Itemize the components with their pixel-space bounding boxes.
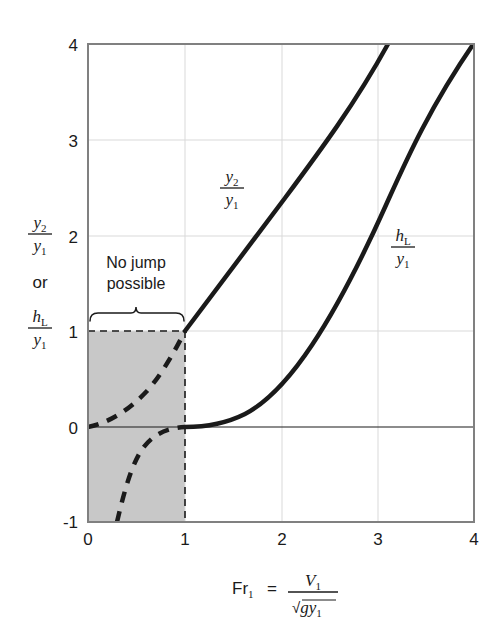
left-mask <box>0 0 88 630</box>
chart-svg: 0 1 2 3 4 4 3 2 1 0 -1 No jump possible … <box>0 0 498 630</box>
no-jump-label-line2: possible <box>107 275 166 292</box>
y-tick-neg1: -1 <box>63 513 78 532</box>
x-tick-3: 3 <box>373 530 382 549</box>
x-axis-label-equals: = <box>267 579 277 598</box>
hydraulic-jump-chart: 0 1 2 3 4 4 3 2 1 0 -1 No jump possible … <box>0 0 498 630</box>
x-tick-1: 1 <box>180 530 189 549</box>
y-tick-3: 3 <box>69 132 78 151</box>
y-tick-0: 0 <box>69 419 78 438</box>
x-tick-2: 2 <box>277 530 286 549</box>
y-tick-2: 2 <box>69 228 78 247</box>
y-tick-4: 4 <box>69 36 78 55</box>
y-tick-1: 1 <box>69 323 78 342</box>
y-axis-label-conjunction: or <box>32 273 47 292</box>
no-jump-label-line1: No jump <box>106 254 166 271</box>
x-tick-0: 0 <box>83 530 92 549</box>
x-tick-4: 4 <box>469 530 478 549</box>
